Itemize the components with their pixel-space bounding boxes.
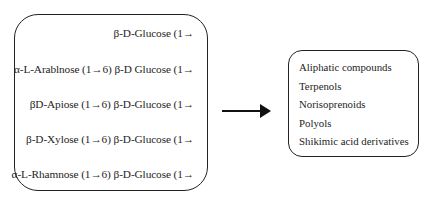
- aglycone-classes-box: Aliphatic compounds Terpenols Norisopren…: [288, 50, 419, 157]
- aglycone-class-list: Aliphatic compounds Terpenols Norisopren…: [299, 58, 409, 151]
- class-item-norisoprenoids: Norisoprenoids: [299, 95, 409, 114]
- glycoside-line-arabinose: α-L-Arablnose (1→6) β-D Glucose (1→: [14, 63, 194, 75]
- arrow-right-icon: [222, 103, 272, 119]
- glycoside-line-apiose: βD-Apiose (1→6) β-D-Glucose (1→: [30, 98, 194, 110]
- glycoside-line-rhamnose: α-L-Rhamnose (1→6) β-D-Glucose (1→: [12, 168, 194, 180]
- glycoside-box: β-D-Glucose (1→ α-L-Arablnose (1→6) β-D …: [14, 14, 208, 191]
- class-item-terpenols: Terpenols: [299, 77, 409, 96]
- class-item-polyols: Polyols: [299, 114, 409, 133]
- glycoside-line-glucose: β-D-Glucose (1→: [114, 27, 194, 39]
- class-item-shikimic: Shikimic acid derivatives: [299, 132, 409, 151]
- class-item-aliphatic: Aliphatic compounds: [299, 58, 409, 77]
- glycoside-line-xylose: β-D-Xylose (1→6) β-D-Glucose (1→: [26, 133, 194, 145]
